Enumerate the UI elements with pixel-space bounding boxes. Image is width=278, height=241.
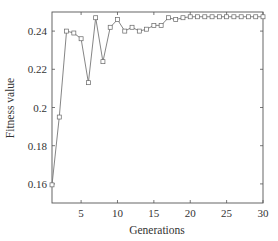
data-point-marker (101, 60, 105, 64)
data-point-marker (166, 16, 170, 20)
y-axis-ticks: 0.160.180.20.220.24 (28, 25, 263, 190)
x-tick-label: 20 (185, 207, 197, 219)
data-point-marker (174, 18, 178, 22)
data-point-marker (86, 81, 90, 85)
data-point-marker (137, 29, 141, 33)
data-point-marker (254, 15, 258, 19)
data-point-marker (203, 15, 207, 19)
data-point-marker (108, 25, 112, 29)
x-tick-label: 15 (148, 207, 160, 219)
data-point-marker (210, 15, 214, 19)
data-point-marker (246, 15, 250, 19)
data-point-marker (50, 183, 54, 187)
x-tick-label: 10 (112, 207, 124, 219)
data-point-marker (181, 16, 185, 20)
data-point-marker (239, 15, 243, 19)
data-point-marker (217, 15, 221, 19)
y-tick-label: 0.16 (28, 178, 48, 190)
data-point-marker (225, 15, 229, 19)
y-axis-title: Fitness value (4, 78, 16, 138)
data-point-marker (232, 15, 236, 19)
data-point-marker (115, 18, 119, 22)
plot-frame (52, 12, 263, 203)
data-point-marker (152, 23, 156, 27)
data-point-marker (72, 31, 76, 35)
data-point-marker (94, 16, 98, 20)
data-point-marker (196, 15, 200, 19)
y-tick-label: 0.18 (28, 140, 48, 152)
y-tick-label: 0.24 (28, 25, 48, 37)
data-series (50, 15, 265, 187)
data-point-marker (145, 27, 149, 31)
x-tick-label: 25 (221, 207, 233, 219)
series-line (52, 17, 263, 185)
data-point-marker (159, 23, 163, 27)
data-point-marker (123, 29, 127, 33)
data-point-marker (188, 15, 192, 19)
y-tick-label: 0.2 (33, 102, 47, 114)
x-tick-label: 30 (258, 207, 270, 219)
fitness-chart: 51015202530 0.160.180.20.220.24 Generati… (0, 0, 278, 241)
data-point-marker (130, 25, 134, 29)
plot-area (52, 12, 263, 203)
x-tick-label: 5 (78, 207, 84, 219)
x-axis-title: Generations (129, 224, 185, 236)
data-point-marker (65, 29, 69, 33)
data-point-marker (57, 115, 61, 119)
y-tick-label: 0.22 (28, 63, 47, 75)
data-point-marker (261, 15, 265, 19)
data-point-marker (79, 37, 83, 41)
chart-canvas: 51015202530 0.160.180.20.220.24 Generati… (0, 0, 278, 241)
